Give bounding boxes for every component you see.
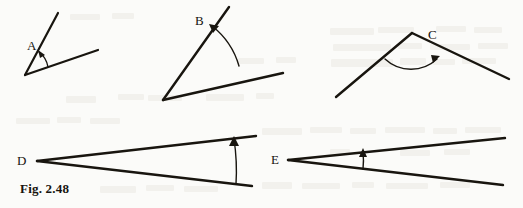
angle-c-ray-1	[336, 33, 412, 97]
angle-e-ray-1	[288, 138, 505, 160]
angle-c-arc	[385, 59, 437, 69]
angle-d-ray-1	[37, 136, 256, 161]
angle-a-label: A	[27, 38, 37, 53]
angle-figure-b: B	[163, 7, 283, 100]
geometry-figure: A B C D	[0, 0, 523, 208]
angle-e-label: E	[271, 152, 279, 167]
angle-d-ray-2	[37, 161, 252, 186]
angle-figure-c: C	[336, 27, 509, 97]
angle-e-ray-2	[288, 160, 503, 185]
angle-b-arc	[212, 26, 239, 66]
angle-c-label: C	[428, 27, 437, 42]
angle-figure-a: A	[25, 13, 98, 75]
angle-figure-d: D	[17, 136, 256, 186]
angle-b-label: B	[195, 13, 204, 28]
angle-c-arrowhead	[431, 55, 440, 63]
angle-d-label: D	[17, 153, 26, 168]
angle-b-ray-2	[163, 73, 283, 100]
figure-caption: Fig. 2.48	[20, 181, 69, 197]
figure-page: A B C D	[0, 0, 523, 208]
angle-figure-e: E	[271, 138, 505, 185]
angle-c-ray-2	[412, 33, 509, 79]
